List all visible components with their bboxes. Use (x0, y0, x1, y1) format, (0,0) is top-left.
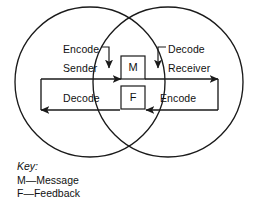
label-decode-sender-side: Decode (63, 92, 100, 104)
key-legend: Key: M—Message F—Feedback (17, 160, 80, 201)
key-entry-message: M—Message (17, 174, 80, 188)
encode-left-leader (101, 47, 109, 68)
diagram-canvas: Encode Sender Decode Decode Receiver Enc… (0, 0, 257, 202)
key-title: Key: (17, 160, 80, 174)
label-encode-sender-side: Encode (63, 43, 99, 55)
message-box-glyph: M (121, 61, 145, 73)
label-encode-receiver-side: Encode (160, 92, 196, 104)
label-decode-receiver-side: Decode (168, 43, 205, 55)
sender-circle (15, 7, 165, 157)
key-entry-feedback: F—Feedback (17, 187, 80, 201)
receiver-circle (93, 7, 243, 157)
encode-left-leader-line (101, 47, 109, 68)
venn-circles (15, 7, 243, 157)
label-sender: Sender (63, 62, 97, 74)
label-receiver: Receiver (168, 62, 210, 74)
feedback-box-glyph: F (121, 91, 145, 103)
decode-right-leader-line (158, 47, 166, 68)
decode-right-leader (158, 47, 166, 68)
